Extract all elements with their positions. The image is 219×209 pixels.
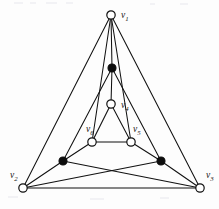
graph-canvas: v1v4v6v5v2v3 [0,0,219,209]
vertex-label-v1: v1 [121,10,129,21]
graph-vertex-v4 [107,100,115,108]
vertex-label-v3: v3 [206,170,214,181]
graph-vertex-v6 [88,138,96,146]
vertex-label-v4: v4 [121,100,129,111]
graph-edge-a1-v4 [111,68,112,104]
graph-vertex-a1 [108,64,116,72]
vertex-label-v6: v6 [86,124,94,135]
graph-vertex-v5 [127,138,135,146]
graph-edge-v6-a2 [63,142,92,161]
graph-vertex-v3 [196,184,204,192]
graph-figure: v1v4v6v5v2v3 [0,0,219,209]
graph-edge-a1-a3 [112,68,161,161]
graph-edge-a1-a2 [63,68,112,161]
graph-edge-a2-v3 [63,161,200,188]
graph-vertex-v1 [107,11,115,19]
vertex-label-v2: v2 [10,170,18,181]
graph-vertex-a2 [59,157,67,165]
graph-vertex-v2 [19,184,27,192]
graph-vertex-a3 [157,157,165,165]
vertex-label-v5: v5 [133,124,141,135]
